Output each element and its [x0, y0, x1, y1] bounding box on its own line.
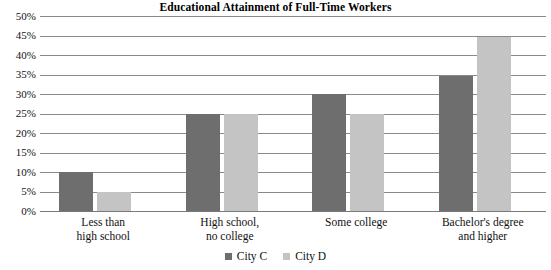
- legend-item[interactable]: City C: [225, 250, 267, 263]
- gridline: [40, 36, 546, 37]
- legend-swatch-icon: [283, 253, 290, 260]
- y-axis-tick-label: 20%: [0, 128, 36, 139]
- x-axis-category-label: High school,no college: [167, 215, 294, 243]
- y-axis-tick-label: 5%: [0, 186, 36, 197]
- legend-swatch-icon: [225, 253, 232, 260]
- bar: [439, 76, 473, 211]
- category-label-line: Less than: [40, 215, 167, 229]
- category-label-line: no college: [167, 229, 294, 243]
- y-axis-tick-label: 45%: [0, 30, 36, 41]
- bar: [477, 37, 511, 211]
- gridline: [40, 211, 546, 212]
- bar: [97, 192, 131, 212]
- y-axis-tick-label: 0%: [0, 206, 36, 217]
- x-axis-category-label: Bachelor's degreeand higher: [420, 215, 547, 243]
- legend-label: City D: [295, 250, 326, 263]
- legend-label: City C: [237, 250, 267, 263]
- bar: [224, 114, 258, 212]
- x-axis-category-label: Less thanhigh school: [40, 215, 167, 243]
- bar-chart: Educational Attainment of Full-Time Work…: [0, 0, 551, 270]
- y-axis-tick-label: 15%: [0, 147, 36, 158]
- bar: [186, 114, 220, 212]
- gridline: [40, 16, 546, 17]
- category-label-line: Some college: [293, 215, 420, 229]
- category-label-line: and higher: [420, 229, 547, 243]
- bar: [350, 114, 384, 212]
- y-axis-tick-label: 50%: [0, 11, 36, 22]
- chart-legend: City CCity D: [0, 250, 551, 263]
- bar: [312, 94, 346, 211]
- y-axis-tick-labels: 50%45%40%35%30%25%20%15%10%5%0%: [0, 16, 36, 211]
- y-axis-tick-label: 35%: [0, 69, 36, 80]
- y-axis-tick-label: 10%: [0, 167, 36, 178]
- y-axis-tick-label: 40%: [0, 50, 36, 61]
- bar: [59, 172, 93, 211]
- plot-area: [40, 16, 546, 211]
- category-label-line: High school,: [167, 215, 294, 229]
- chart-title: Educational Attainment of Full-Time Work…: [0, 1, 551, 14]
- y-axis-tick-label: 30%: [0, 89, 36, 100]
- x-axis-category-label: Some college: [293, 215, 420, 229]
- category-label-line: high school: [40, 229, 167, 243]
- gridline: [40, 75, 546, 76]
- gridline: [40, 55, 546, 56]
- legend-item[interactable]: City D: [283, 250, 326, 263]
- category-label-line: Bachelor's degree: [420, 215, 547, 229]
- y-axis-tick-label: 25%: [0, 108, 36, 119]
